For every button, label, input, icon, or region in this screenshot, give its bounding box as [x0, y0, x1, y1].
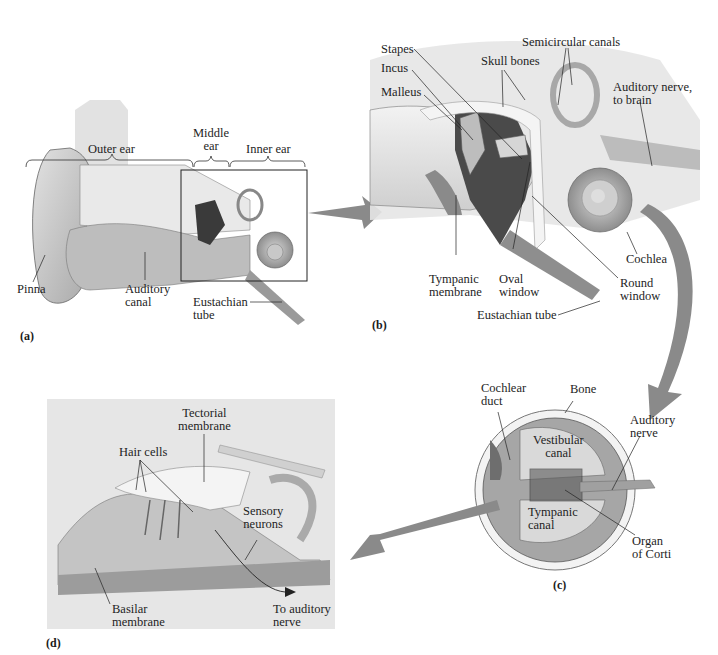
- label-malleus: Malleus: [381, 86, 421, 99]
- panel-label-d: (d): [46, 636, 61, 651]
- label-auditory-nerve-to-brain: Auditory nerve, to brain: [613, 81, 692, 107]
- label-inner-ear: Inner ear: [246, 143, 291, 156]
- label-pinna: Pinna: [17, 283, 45, 296]
- panel-label-b: (b): [372, 318, 387, 333]
- label-incus: Incus: [381, 62, 408, 75]
- label-cochlear-duct: Cochlear duct: [481, 382, 526, 408]
- arrow-c-to-d-icon: [350, 500, 500, 560]
- label-sensory-neurons: Sensory neurons: [243, 505, 283, 531]
- label-skull-bones: Skull bones: [481, 55, 540, 68]
- panel-d-artwork: [58, 434, 330, 604]
- panel-c-artwork: [475, 401, 655, 570]
- label-eustachian-tube-b: Eustachian tube: [477, 309, 557, 322]
- label-outer-ear: Outer ear: [88, 143, 135, 156]
- label-tympanic-membrane: Tympanic membrane: [429, 273, 482, 299]
- label-auditory-nerve-c: Auditory nerve: [630, 414, 675, 440]
- label-tympanic-canal: Tympanic canal: [528, 506, 578, 532]
- label-auditory-canal: Auditory canal: [125, 283, 170, 309]
- label-basilar-membrane: Basilar membrane: [112, 603, 165, 629]
- label-eustachian-tube-a: Eustachian tube: [193, 296, 248, 322]
- panel-label-c: (c): [553, 578, 566, 593]
- label-cochlea: Cochlea: [626, 253, 667, 266]
- label-hair-cells: Hair cells: [119, 446, 167, 459]
- label-to-auditory-nerve: To auditory nerve: [273, 603, 331, 629]
- arrow-b-to-c-icon: [640, 204, 693, 420]
- panel-label-a: (a): [20, 329, 34, 344]
- label-semicircular-canals: Semicircular canals: [522, 36, 620, 49]
- label-oval-window: Oval window: [499, 273, 539, 299]
- label-round-window: Round window: [620, 277, 660, 303]
- illustration-artwork: [0, 0, 718, 655]
- label-vestibular-canal: Vestibular canal: [533, 434, 584, 460]
- label-organ-of-corti: Organ of Corti: [632, 535, 671, 561]
- label-bone: Bone: [570, 383, 596, 396]
- label-tectorial-membrane: Tectorial membrane: [178, 407, 231, 433]
- label-stapes: Stapes: [381, 43, 414, 56]
- label-middle-ear: Middle ear: [193, 127, 229, 153]
